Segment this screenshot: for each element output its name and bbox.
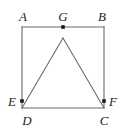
point-marker-g [61, 25, 65, 29]
vertex-label-f: F [109, 95, 117, 108]
vertex-label-a: A [19, 10, 27, 23]
vertex-label-e: E [8, 95, 16, 108]
vertex-label-b: B [98, 10, 106, 23]
triangle-edge-left [22, 38, 63, 108]
triangle-edge-right [63, 38, 104, 108]
square-abcd [22, 27, 104, 108]
geometry-figure: A G B E F D C [0, 0, 124, 138]
vertex-label-g: G [58, 10, 67, 23]
triangle-gdc [22, 38, 104, 108]
point-marker-f [102, 99, 106, 103]
point-marker-e [20, 99, 24, 103]
vertex-label-d: D [22, 114, 31, 127]
vertex-label-c: C [100, 114, 109, 127]
